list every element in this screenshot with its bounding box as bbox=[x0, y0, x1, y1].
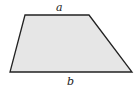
trapezoid-diagram: a b bbox=[0, 0, 137, 90]
top-base-label: a bbox=[56, 1, 63, 14]
trapezoid-shape bbox=[10, 15, 132, 72]
bottom-base-label: b bbox=[67, 75, 74, 88]
